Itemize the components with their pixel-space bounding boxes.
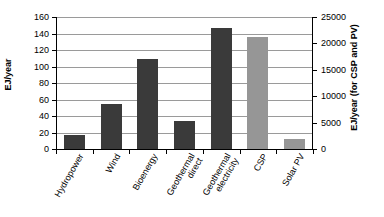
bar	[211, 28, 232, 149]
y-tick-label-right: 0	[321, 145, 326, 154]
gridline	[56, 83, 313, 84]
x-tick	[313, 150, 314, 154]
bar	[174, 121, 195, 149]
gridline	[56, 100, 313, 101]
x-category-label-line: Wind	[105, 152, 123, 174]
gridline	[56, 34, 313, 35]
bar	[101, 104, 122, 149]
y-tick-label-left: 100	[34, 62, 49, 71]
y-tick-label-left: 120	[34, 46, 49, 55]
y-tick-label-left: 20	[39, 128, 49, 137]
gridline	[56, 17, 313, 18]
y-tick-label-right: 15000	[321, 65, 346, 74]
x-axis-line	[56, 149, 313, 150]
y-axis-line-right	[312, 17, 313, 150]
plot-area: 020406080100120140160 050001000015000200…	[56, 17, 313, 150]
y-tick-right	[313, 123, 317, 124]
bar	[64, 135, 85, 149]
y-tick-label-left: 60	[39, 95, 49, 104]
y-tick-label-left: 80	[39, 79, 49, 88]
y-tick-label-left: 160	[34, 13, 49, 22]
bar	[284, 139, 305, 149]
x-category-label-line: Bioenergy	[131, 152, 159, 192]
x-category-label: Bioenergy	[131, 152, 159, 192]
gridline	[56, 67, 313, 68]
y-tick-label-right: 20000	[321, 39, 346, 48]
y-axis-line-left	[56, 17, 57, 150]
y-tick-right	[313, 17, 317, 18]
gridline	[56, 116, 313, 117]
y-tick-label-right: 10000	[321, 92, 346, 101]
y-tick-label-right: 25000	[321, 13, 346, 22]
gridline	[56, 50, 313, 51]
x-category-label-line: Solar PV	[281, 152, 307, 187]
x-category-label: Solar PV	[281, 152, 307, 187]
y-axis-label-left: EJ/year	[4, 45, 13, 105]
y-tick-label-left: 140	[34, 29, 49, 38]
y-tick-label-left: 40	[39, 112, 49, 121]
y-tick-right	[313, 43, 317, 44]
x-category-label: Geothermaldirect	[165, 152, 204, 202]
y-tick-label-left: 0	[44, 145, 49, 154]
x-category-label-line: Hydropower	[54, 152, 86, 199]
bar-chart: EJ/year EJ/year (for CSP and PV) 0204060…	[0, 0, 384, 217]
x-category-label: Wind	[105, 152, 123, 174]
bar	[137, 59, 158, 149]
x-axis-category-labels: HydropowerWindBioenergyGeothermaldirectG…	[56, 152, 313, 217]
x-category-label: Hydropower	[54, 152, 86, 199]
x-category-label: Geothermalelectricity	[202, 152, 241, 202]
y-tick-right	[313, 70, 317, 71]
y-tick-label-right: 5000	[321, 118, 341, 127]
x-category-label: CSP	[252, 152, 269, 173]
y-axis-label-right: EJ/year (for CSP and PV)	[350, 13, 359, 143]
bar	[247, 37, 268, 149]
x-category-label-line: CSP	[252, 152, 269, 173]
y-tick-right	[313, 96, 317, 97]
